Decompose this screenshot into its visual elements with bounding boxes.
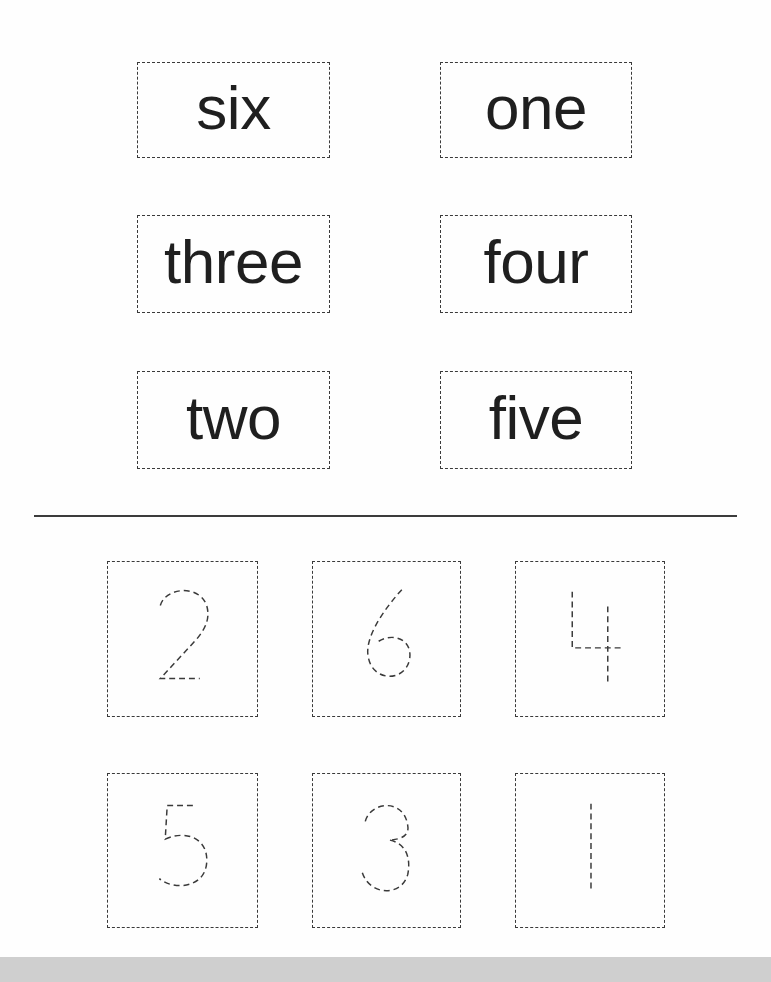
word-card-four: four — [440, 215, 632, 313]
digit-2-trace-icon — [108, 562, 257, 716]
word-card-two: two — [137, 371, 330, 469]
word-card-six: six — [137, 62, 330, 158]
digit-3-trace-icon — [313, 774, 460, 927]
digit-4-trace-icon — [516, 562, 664, 716]
word-label: one — [485, 77, 587, 139]
word-label: six — [196, 77, 270, 139]
number-card-2 — [107, 561, 258, 717]
digit-1-trace-icon — [516, 774, 664, 927]
number-card-4 — [515, 561, 665, 717]
word-card-five: five — [440, 371, 632, 469]
word-card-three: three — [137, 215, 330, 313]
number-card-6 — [312, 561, 461, 717]
digit-5-trace-icon — [108, 774, 257, 927]
section-divider — [34, 515, 737, 517]
number-card-5 — [107, 773, 258, 928]
scan-edge-bar — [0, 957, 771, 982]
number-card-1 — [515, 773, 665, 928]
word-label: two — [186, 387, 281, 449]
word-label: five — [489, 387, 583, 449]
digit-6-trace-icon — [313, 562, 460, 716]
word-label: four — [484, 231, 589, 293]
number-card-3 — [312, 773, 461, 928]
worksheet-page: six one three four two five — [0, 0, 771, 957]
word-card-one: one — [440, 62, 632, 158]
word-label: three — [164, 231, 303, 293]
